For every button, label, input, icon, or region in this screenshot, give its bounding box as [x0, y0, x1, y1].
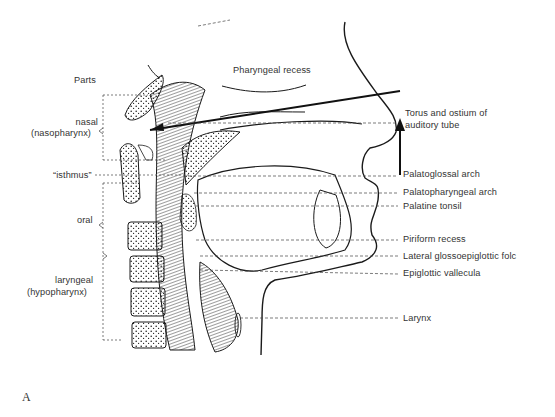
label-palatoglossal-arch: Palatoglossal arch [403, 169, 480, 180]
label-torus-ostium: Torus and ostium of [405, 108, 487, 119]
part-laryngeal-sublabel: (hypopharynx) [27, 287, 87, 298]
panel-letter: A [22, 390, 31, 405]
pharynx-drawing [0, 0, 555, 417]
part-isthmus-label: “isthmus” [53, 170, 92, 181]
parts-heading: Parts [74, 75, 96, 86]
nasal-concha-upper [222, 85, 306, 92]
tonsil [180, 194, 196, 231]
part-nasal-label: nasal [68, 117, 98, 128]
part-oral-label: oral [77, 215, 93, 226]
label-palatine-tonsil: Palatine tonsil [403, 201, 462, 212]
label-epiglottic-vallecula: Epiglottic vallecula [403, 268, 481, 279]
label-piriform-recess: Piriform recess [403, 234, 466, 245]
larynx-outline [200, 262, 239, 352]
anatomy-figure: Parts nasal (nasopharynx) “isthmus” oral… [0, 0, 555, 417]
label-palatopharyngeal-arch: Palatopharyngeal arch [403, 187, 497, 198]
label-pharyngeal-recess: Pharyngeal recess [233, 65, 311, 76]
hard-palate [220, 121, 362, 130]
label-torus-ostium-line2: auditory tube [405, 120, 459, 131]
tongue [197, 166, 351, 271]
label-lateral-glossoepiglottic-fold: Lateral glossoepiglottic folc [403, 251, 516, 262]
part-laryngeal-label: laryngeal [55, 275, 93, 286]
label-larynx: Larynx [403, 313, 431, 324]
epiglottis-shape [314, 190, 341, 248]
part-nasal-sublabel: (nasopharynx) [31, 128, 91, 139]
